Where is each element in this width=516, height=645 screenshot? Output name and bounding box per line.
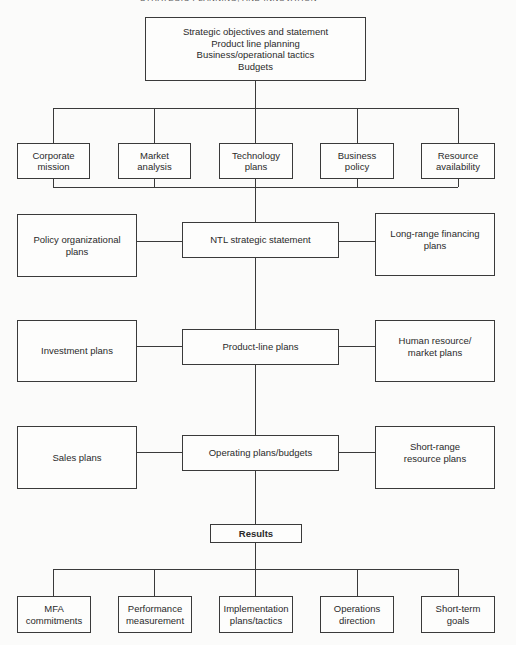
connector (137, 452, 182, 453)
ntl-strategic-statement-box: NTL strategic statement (182, 222, 339, 258)
box-label: Operating plans/budgets (209, 447, 313, 459)
connector (154, 569, 155, 596)
sales-plans-box: Sales plans (17, 426, 137, 489)
box-label: plans (424, 240, 447, 252)
connector (255, 471, 256, 524)
mfa-commitments-box: MFA commitments (17, 596, 91, 633)
box-label: Sales plans (52, 452, 101, 464)
resource-availability-box: Resource availability (421, 143, 495, 179)
operating-plans-budgets-box: Operating plans/budgets (182, 435, 339, 471)
product-line-plans-box: Product-line plans (182, 329, 339, 365)
box-label: plans/tactics (230, 615, 282, 627)
page-header: STRATEGIC PLANNING, AND INNOVATION (140, 0, 380, 4)
connector (137, 241, 182, 242)
box-label: market plans (408, 347, 462, 359)
box-label: plans (245, 161, 268, 173)
box-label: Short-range (410, 441, 460, 453)
connector (255, 108, 256, 143)
connector (458, 108, 459, 143)
connector (458, 179, 459, 187)
box-label: MFA (44, 603, 64, 615)
box-label: plans (66, 246, 89, 258)
human-resource-market-plans-box: Human resource/ market plans (375, 320, 495, 382)
connector (154, 108, 155, 143)
operations-direction-box: Operations direction (320, 596, 394, 633)
connector (255, 81, 256, 108)
connector (357, 108, 358, 143)
box-label: goals (447, 615, 470, 627)
connector (154, 179, 155, 187)
connector (339, 452, 375, 453)
connector (357, 569, 358, 596)
business-policy-box: Business policy (320, 143, 394, 179)
box-label: Results (239, 528, 273, 540)
connector (357, 179, 358, 187)
connector (255, 187, 256, 222)
performance-measurement-box: Performance measurement (118, 596, 192, 633)
box-label: policy (345, 161, 369, 173)
objectives-line: Budgets (238, 61, 273, 73)
connector (339, 241, 375, 242)
short-term-goals-box: Short-term goals (421, 596, 495, 633)
connector (137, 346, 182, 347)
connector (255, 179, 256, 187)
box-label: Corporate (32, 150, 74, 162)
box-label: Policy organizational (33, 234, 120, 246)
box-label: direction (339, 615, 375, 627)
objectives-line: Business/operational tactics (197, 49, 315, 61)
policy-organizational-plans-box: Policy organizational plans (17, 214, 137, 277)
box-label: Operations (334, 603, 380, 615)
box-label: Implementation (224, 603, 289, 615)
corporate-mission-box: Corporate mission (17, 143, 90, 179)
box-label: Resource (438, 150, 479, 162)
connector (53, 108, 54, 143)
box-label: Long-range financing (390, 228, 479, 240)
connector (255, 543, 256, 569)
box-label: Performance (128, 603, 182, 615)
implementation-plans-tactics-box: Implementation plans/tactics (219, 596, 293, 633)
connector (255, 258, 256, 329)
top-objectives-box: Strategic objectives and statement Produ… (145, 17, 366, 81)
box-label: Business (338, 150, 377, 162)
box-label: mission (37, 161, 69, 173)
long-range-financing-plans-box: Long-range financing plans (375, 213, 495, 276)
connector (53, 569, 54, 596)
market-analysis-box: Market analysis (118, 143, 191, 179)
objectives-line: Product line planning (211, 38, 300, 50)
connector (255, 569, 256, 596)
box-label: Investment plans (41, 345, 113, 357)
connector (53, 179, 54, 187)
box-label: Human resource/ (399, 335, 472, 347)
box-label: resource plans (404, 453, 466, 465)
box-label: Product-line plans (222, 341, 298, 353)
short-range-resource-plans-box: Short-range resource plans (375, 426, 495, 489)
box-label: measurement (126, 615, 184, 627)
box-label: Market (140, 150, 169, 162)
objectives-line: Strategic objectives and statement (183, 26, 328, 38)
box-label: analysis (137, 161, 171, 173)
box-label: Technology (232, 150, 280, 162)
technology-plans-box: Technology plans (219, 143, 293, 179)
results-box: Results (210, 524, 302, 543)
investment-plans-box: Investment plans (17, 320, 137, 382)
connector (339, 346, 375, 347)
box-label: availability (436, 161, 480, 173)
box-label: NTL strategic statement (210, 234, 311, 246)
connector (458, 569, 459, 596)
box-label: Short-term (436, 603, 481, 615)
connector (255, 365, 256, 435)
box-label: commitments (26, 615, 82, 627)
